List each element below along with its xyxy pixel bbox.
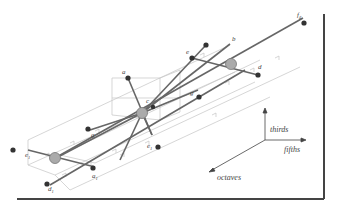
label-e1: e1 <box>147 142 152 151</box>
node-a <box>125 75 130 80</box>
node-g <box>196 94 201 99</box>
centroid-left <box>50 153 61 164</box>
node-f-sharp <box>301 20 306 25</box>
label-g: g <box>190 89 194 97</box>
node-d <box>255 72 260 77</box>
node-a1 <box>90 165 95 170</box>
axis-indicator <box>209 108 306 172</box>
node-g1 <box>85 126 90 131</box>
node-e1-left <box>10 147 15 152</box>
chord-lines <box>28 18 303 185</box>
arrow-up-icon <box>263 108 267 113</box>
label-e: e <box>186 48 189 56</box>
node-b <box>203 42 208 47</box>
label-e1-left: e1 <box>25 151 30 160</box>
label-a1: a1 <box>92 172 98 181</box>
label-d1: d1 <box>48 185 54 194</box>
axis-label-fifths: fifths <box>284 145 300 154</box>
centroid-middle <box>137 108 148 119</box>
axis-label-octaves: octaves <box>217 173 241 182</box>
label-a: a <box>122 68 126 76</box>
node-e <box>189 55 194 60</box>
axis-label-thirds: thirds <box>270 125 288 134</box>
node-c <box>151 105 155 109</box>
label-g1: g <box>91 131 95 139</box>
label-d: d <box>258 63 262 71</box>
node-e1 <box>155 144 160 149</box>
arrow-right-icon <box>301 138 306 142</box>
tonnetz-diagram: a b c d e f♯ g e1 g a1 d1 e1 thirds fift… <box>0 0 341 211</box>
label-b: b <box>232 35 236 43</box>
centroid-right <box>226 59 237 70</box>
